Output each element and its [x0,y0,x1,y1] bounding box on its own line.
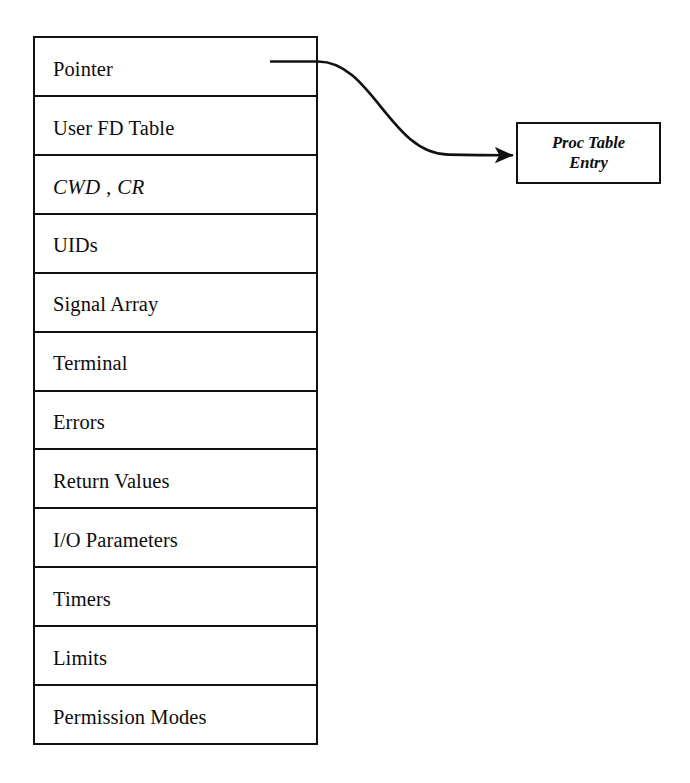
pointer-curve-arrow [318,62,512,156]
struct-row-label: User FD Table [53,118,174,140]
struct-row-user-fd-table[interactable]: User FD Table [35,97,316,156]
proc-table-entry-label-line2: Entry [569,153,608,173]
struct-row-return-values[interactable]: Return Values [35,450,316,509]
struct-row-label: Signal Array [53,294,158,316]
struct-row-signal-array[interactable]: Signal Array [35,274,316,333]
proc-table-entry-label-line1: Proc Table [552,133,625,153]
struct-row-label: Return Values [53,471,170,493]
struct-row-label: CWD , CR [53,176,145,198]
struct-row-label: Terminal [53,353,128,375]
user-structure-table: Pointer User FD Table CWD , CR UIDs Sign… [33,36,318,745]
struct-row-limits[interactable]: Limits [35,627,316,686]
struct-row-label: Limits [53,648,107,670]
struct-row-label: Timers [53,589,111,611]
struct-row-uids[interactable]: UIDs [35,215,316,274]
struct-row-terminal[interactable]: Terminal [35,333,316,392]
struct-row-pointer[interactable]: Pointer [35,38,316,97]
struct-row-label: I/O Parameters [53,530,178,552]
struct-row-label: Permission Modes [53,707,207,729]
proc-table-entry-box[interactable]: Proc Table Entry [516,122,661,184]
struct-row-label: Pointer [53,59,113,81]
struct-row-label: Errors [53,412,105,434]
struct-row-errors[interactable]: Errors [35,392,316,451]
struct-row-permission-modes[interactable]: Permission Modes [35,686,316,743]
struct-row-io-parameters[interactable]: I/O Parameters [35,509,316,568]
struct-row-timers[interactable]: Timers [35,568,316,627]
struct-row-label: UIDs [53,235,98,257]
struct-row-cwd-cr[interactable]: CWD , CR [35,156,316,215]
diagram-canvas: Pointer User FD Table CWD , CR UIDs Sign… [0,0,690,783]
